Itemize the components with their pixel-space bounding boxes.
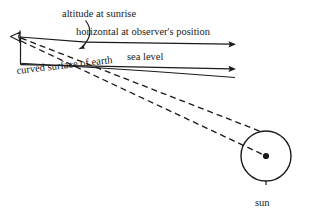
observer-arrowhead-icon — [11, 31, 21, 44]
label-horizontal-at-observers-position: horizontal at observer's position — [76, 27, 210, 38]
diagram-page: altitude at sunrise horizontal at observ… — [0, 0, 312, 215]
horizontal-ray-arrow — [86, 41, 236, 47]
label-sun: sun — [255, 198, 270, 209]
label-sea-level: sea level — [127, 52, 163, 63]
label-altitude-at-sunrise: altitude at sunrise — [62, 9, 136, 20]
horizontal-connector — [20, 37, 86, 42]
sun-center-dot — [263, 153, 269, 159]
